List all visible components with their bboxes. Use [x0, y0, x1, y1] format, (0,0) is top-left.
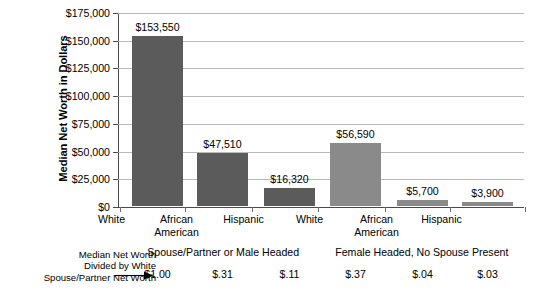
bar-value-label: $153,550	[135, 21, 179, 33]
y-tick-label: $0	[98, 201, 110, 213]
y-tick-mark	[113, 68, 118, 69]
x-tick-mark	[120, 207, 121, 212]
bar-value-label: $5,700	[406, 185, 438, 197]
x-category-label: Hispanic	[396, 213, 488, 226]
bar-value-label: $3,900	[471, 187, 503, 199]
ratio-value: $.03	[477, 268, 498, 280]
bar	[462, 202, 513, 206]
x-category-label-line: American	[331, 226, 423, 239]
bar	[330, 143, 381, 206]
y-tick-label: $50,000	[72, 146, 110, 158]
x-category-label-line: Hispanic	[396, 213, 488, 226]
bar-value-label: $56,590	[336, 128, 374, 140]
bar	[264, 188, 315, 206]
ratio-value: $.04	[412, 268, 433, 280]
ratio-value: $.31	[212, 268, 233, 280]
x-tick-mark	[185, 207, 186, 212]
y-tick-mark	[113, 96, 118, 97]
x-tick-mark	[450, 207, 451, 212]
bar	[397, 200, 448, 206]
bar-value-label: $47,510	[203, 138, 241, 150]
bar	[197, 153, 248, 206]
y-tick-label: $175,000	[66, 7, 110, 19]
group-header-label: Female Headed, No Spouse Present	[335, 246, 508, 258]
y-tick-label: $125,000	[66, 62, 110, 74]
x-tick-mark	[525, 207, 526, 212]
bar	[132, 36, 183, 206]
ratio-value: $.11	[280, 268, 300, 280]
y-axis-title: Median Net Worth in Dollars	[56, 1, 70, 216]
x-tick-mark	[252, 207, 253, 212]
y-tick-label: $25,000	[72, 173, 110, 185]
plot-area: $0$25,000$50,000$75,000$100,000$125,000$…	[118, 13, 524, 207]
bar-value-label: $16,320	[270, 173, 308, 185]
y-tick-mark	[113, 179, 118, 180]
y-tick-label: $75,000	[72, 118, 110, 130]
ratio-value: $1.00	[144, 268, 171, 280]
x-category-label-line: American	[131, 226, 223, 239]
y-tick-mark	[113, 13, 118, 14]
x-tick-mark	[318, 207, 319, 212]
gridline	[118, 13, 524, 14]
ratio-note-line-1: Median Net Worth	[6, 249, 156, 260]
y-tick-mark	[113, 124, 118, 125]
group-header-label: Spouse/Partner or Male Headed	[147, 246, 299, 258]
y-tick-mark	[113, 41, 118, 42]
ratio-value: $.37	[345, 268, 366, 280]
x-axis-line	[118, 207, 524, 208]
y-tick-label: $150,000	[66, 35, 110, 47]
bar-chart-figure: Median Net Worth in Dollars $0$25,000$50…	[0, 0, 534, 303]
x-tick-mark	[385, 207, 386, 212]
y-tick-mark	[113, 207, 118, 208]
y-tick-mark	[113, 152, 118, 153]
y-tick-label: $100,000	[66, 90, 110, 102]
